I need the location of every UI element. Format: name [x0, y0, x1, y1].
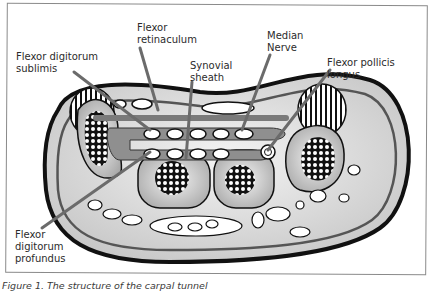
figure-caption: Figure 1. The structure of the carpal tu… — [2, 280, 208, 291]
flexor-pollicis-longus-tendon — [261, 145, 275, 159]
label-flexor-digitorum-sublimis: Flexor digitorum sublimis — [16, 51, 98, 75]
label-flexor-retinaculum: Flexor retinaculum — [137, 22, 197, 46]
label-synovial-sheath: Synovial sheath — [190, 60, 232, 84]
label-flexor-pollicis-longus: Flexor pollicis longus — [327, 57, 428, 81]
label-median-nerve: Median Nerve — [267, 30, 303, 54]
label-flexor-digitorum-profundus: Flexor digitorum profundus — [15, 229, 65, 265]
